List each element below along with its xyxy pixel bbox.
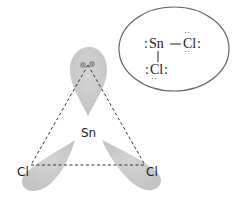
lewis-sn: Sn xyxy=(149,36,164,51)
cl-left-label: Cl xyxy=(17,165,29,179)
cl-right-label: Cl xyxy=(146,165,158,179)
svg-text::: : xyxy=(145,62,149,77)
svg-text::: : xyxy=(197,36,201,51)
lone-pair-electron-right xyxy=(89,61,95,67)
svg-text:··: ·· xyxy=(184,46,190,56)
left-cl-lobe xyxy=(22,140,75,191)
sn-label: Sn xyxy=(81,126,96,140)
svg-text::: : xyxy=(164,62,168,77)
lone-pair-lobe xyxy=(70,47,107,116)
lone-pair-electron-left xyxy=(80,62,86,68)
sncl2-diagram: Sn Cl Cl : Sn ·· Cl : ·· : Cl : ·· xyxy=(0,0,234,204)
svg-text:··: ·· xyxy=(151,73,157,83)
svg-text::: : xyxy=(144,36,148,51)
lewis-structure-inset: : Sn ·· Cl : ·· : Cl : ·· xyxy=(119,7,229,91)
